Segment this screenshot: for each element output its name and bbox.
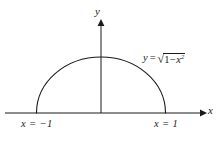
equation-equals-sign: = — [148, 53, 158, 64]
x-axis-arrowhead-icon — [200, 110, 207, 117]
left-intercept-label: x = −1 — [21, 119, 53, 130]
radical-expression: √ 1−x2 — [158, 53, 186, 65]
semicircle-figure: y x x = −1 x = 1 y = √ 1−x2 — [0, 0, 221, 149]
x-axis-label: x — [208, 105, 213, 116]
radicand-exponent: 2 — [181, 52, 184, 59]
equation-label: y = √ 1−x2 — [143, 53, 185, 65]
y-axis-label: y — [95, 6, 100, 17]
y-axis-arrowhead-icon — [98, 19, 105, 26]
right-intercept-label: x = 1 — [154, 119, 178, 130]
equation-row: y = √ 1−x2 — [143, 53, 185, 65]
radicand: 1−x2 — [163, 53, 185, 65]
